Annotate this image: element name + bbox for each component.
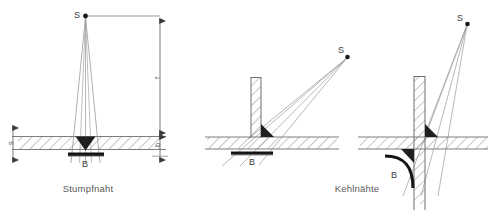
source-point xyxy=(465,22,470,27)
film-strip xyxy=(68,153,104,156)
panel-fillet-tee: S B xyxy=(205,45,350,167)
source-label: S xyxy=(74,10,80,20)
diagram-canvas: S B f b s Stumpfnaht xyxy=(0,0,488,217)
dimension-thickness: s xyxy=(6,128,15,160)
vertical-plate xyxy=(251,77,261,138)
source-label: S xyxy=(457,13,463,23)
film-label: B xyxy=(249,157,255,167)
source-label: S xyxy=(338,45,344,55)
film-strip xyxy=(231,152,273,155)
fillet-weld-bead-upper xyxy=(425,124,438,137)
radiation-beam-fan xyxy=(222,58,347,166)
radiation-beam-fan xyxy=(403,25,467,196)
film-label: B xyxy=(391,170,397,180)
source-point xyxy=(345,55,350,60)
source-point xyxy=(83,14,88,19)
dimension-focus-distance: f xyxy=(153,21,162,133)
dimension-film-offset-label: b xyxy=(153,143,162,147)
vertical-plate xyxy=(414,76,425,210)
caption-butt-weld: Stumpfnaht xyxy=(63,183,114,194)
panel-butt-weld: S B f b s Stumpfnaht xyxy=(6,10,168,194)
welding-radiography-diagram: S B f b s Stumpfnaht xyxy=(0,0,488,217)
panel-fillet-cross: S B Kehlnähte xyxy=(335,13,488,210)
film-strip-curved xyxy=(385,156,413,188)
fillet-weld-bead xyxy=(261,124,274,137)
caption-fillet-welds: Kehlnähte xyxy=(335,183,380,194)
film-label: B xyxy=(82,159,88,169)
horizontal-plate xyxy=(205,137,339,149)
dimension-thickness-label: s xyxy=(6,141,15,145)
dimension-focus-label: f xyxy=(153,76,162,79)
